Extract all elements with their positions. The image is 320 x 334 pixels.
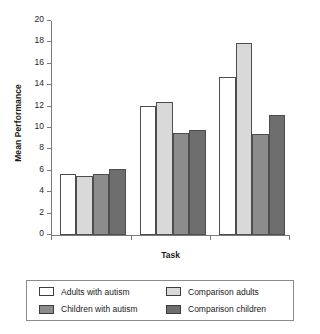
plot-area: 02468101214161820 [51, 21, 290, 235]
y-tick: 8 [47, 148, 51, 149]
bar [252, 134, 269, 235]
y-tick: 2 [47, 213, 51, 214]
bar [93, 174, 110, 235]
legend-entry[interactable]: Comparison children [166, 304, 293, 314]
y-tick: 20 [47, 20, 51, 21]
bar-chart-figure: Mean Performance 02468101214161820 2-bac… [0, 0, 320, 334]
y-tick-label: 14 [35, 78, 44, 89]
x-tick [131, 235, 132, 240]
y-tick: 6 [47, 170, 51, 171]
bar-group [140, 21, 206, 235]
legend-swatch-icon [39, 305, 54, 314]
y-tick-label: 18 [35, 35, 44, 46]
x-tick [289, 235, 290, 240]
y-tick-label: 2 [39, 207, 44, 218]
bar [60, 174, 77, 235]
y-tick: 14 [47, 84, 51, 85]
bar [219, 77, 236, 235]
x-axis-line [51, 235, 290, 236]
legend-swatch-icon [39, 287, 54, 296]
legend-entry[interactable]: Comparison adults [166, 287, 293, 297]
legend-label: Comparison adults [188, 287, 259, 297]
y-tick: 10 [47, 127, 51, 128]
legend-swatch-icon [166, 305, 181, 314]
bar [140, 106, 157, 235]
y-axis-title: Mean Performance [13, 53, 23, 193]
y-tick-label: 16 [35, 57, 44, 68]
bar [109, 169, 126, 235]
bar [189, 130, 206, 235]
y-tick: 4 [47, 191, 51, 192]
bar-group [60, 21, 126, 235]
y-tick-label: 6 [39, 164, 44, 175]
y-tick-label: 10 [35, 121, 44, 132]
y-tick: 12 [47, 106, 51, 107]
y-axis-line [51, 21, 52, 236]
legend: Adults with autismComparison adultsChild… [26, 280, 294, 321]
legend-entry[interactable]: Children with autism [39, 304, 166, 314]
legend-label: Comparison children [188, 304, 266, 314]
legend-entry[interactable]: Adults with autism [39, 287, 166, 297]
legend-label: Children with autism [61, 304, 138, 314]
y-tick-label: 20 [35, 14, 44, 25]
y-tick-label: 8 [39, 142, 44, 153]
bar [76, 176, 93, 235]
bar [269, 115, 286, 235]
legend-swatch-icon [166, 287, 181, 296]
y-tick-label: 4 [39, 185, 44, 196]
bar [236, 43, 253, 235]
bar-group [219, 21, 285, 235]
bar [173, 133, 190, 235]
y-tick: 16 [47, 63, 51, 64]
y-tick-label: 0 [39, 228, 44, 239]
x-axis-title: Task [51, 250, 290, 260]
legend-label: Adults with autism [61, 287, 130, 297]
bar [156, 102, 173, 235]
x-tick [51, 235, 52, 240]
y-tick: 18 [47, 41, 51, 42]
y-tick-label: 12 [35, 100, 44, 111]
x-tick [210, 235, 211, 240]
